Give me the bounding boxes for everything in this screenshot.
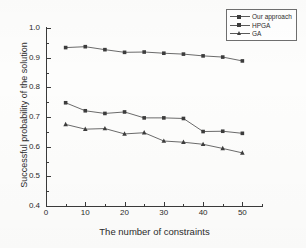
data-point-square [182, 52, 186, 56]
legend-label: GA [252, 30, 261, 37]
data-point-triangle [63, 122, 68, 126]
legend-marker-square-icon [230, 13, 250, 21]
series-ga [63, 122, 244, 155]
data-point-square [64, 46, 68, 50]
data-point-square [142, 50, 146, 54]
data-point-triangle [103, 126, 108, 130]
series-line [66, 47, 243, 61]
data-point-square [241, 132, 245, 136]
series-line [66, 124, 243, 152]
legend-marker-square-icon [230, 21, 250, 29]
data-point-square [201, 130, 205, 134]
data-point-square [103, 48, 107, 52]
data-point-square [83, 109, 87, 113]
legend-label: HPGA [252, 22, 270, 29]
data-point-square [221, 129, 225, 133]
data-point-square [162, 116, 166, 120]
series-our-approach [64, 45, 244, 63]
legend-label: Our approach [252, 13, 292, 20]
data-point-square [64, 101, 68, 105]
data-point-square [201, 54, 205, 58]
data-point-square [123, 110, 127, 114]
chart-figure: 1.00.90.80.70.60.50.401020304050 Success… [0, 0, 306, 248]
data-point-square [221, 55, 225, 59]
data-point-square [123, 51, 127, 55]
data-point-triangle [142, 130, 147, 134]
legend: Our approach HPGA GA [226, 9, 297, 41]
legend-item-ga[interactable]: GA [230, 30, 292, 38]
legend-item-our-approach[interactable]: Our approach [230, 13, 292, 21]
legend-marker-triangle-icon [230, 30, 250, 38]
data-point-square [142, 116, 146, 120]
data-point-square [241, 59, 245, 63]
data-point-square [162, 51, 166, 55]
data-point-square [83, 45, 87, 49]
data-point-square [182, 117, 186, 121]
legend-item-hpga[interactable]: HPGA [230, 21, 292, 29]
series-hpga [64, 101, 244, 135]
data-point-square [103, 112, 107, 116]
